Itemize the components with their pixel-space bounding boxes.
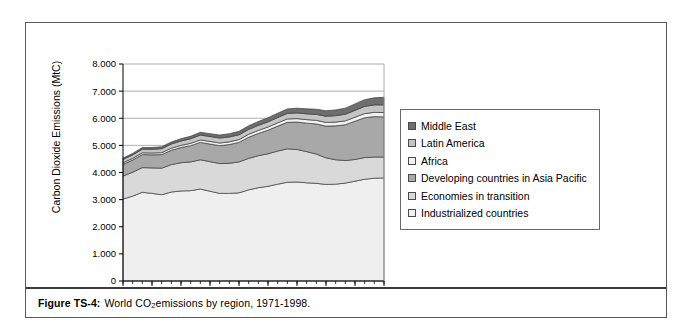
caption-subscript: 2 [151,301,155,310]
legend-label: Developing countries in Asia Pacific [421,172,587,184]
legend-swatch-icon [408,157,416,165]
svg-text:8.000: 8.000 [92,58,116,69]
svg-text:7.000: 7.000 [92,86,116,97]
legend-label: Middle East [421,120,476,132]
legend-item-industrialized-countries[interactable]: Industrialized countries [408,205,593,223]
svg-text:3.000: 3.000 [92,194,116,205]
legend-swatch-icon [408,139,416,147]
figure-caption: Figure TS-4:World CO2 emissions by regio… [26,289,666,317]
stacked-area-plot: 01.0002.0003.0004.0005.0006.0007.0008.00… [26,23,406,287]
figure-body: Carbon Dioxide Emissions (MtC) 01.0002.0… [26,23,666,287]
caption-text-after: emissions by region, 1971-1998. [155,297,310,309]
legend-label: Industrialized countries [421,207,528,219]
legend-label: Africa [421,155,448,167]
svg-text:0: 0 [111,275,116,286]
legend-swatch-icon [408,209,416,217]
legend-item-middle-east[interactable]: Middle East [408,117,593,135]
figure-frame: Carbon Dioxide Emissions (MtC) 01.0002.0… [25,22,667,318]
chart-area: Carbon Dioxide Emissions (MtC) 01.0002.0… [26,23,406,287]
legend-item-latin-america[interactable]: Latin America [408,135,593,153]
legend-label: Latin America [421,137,485,149]
chart-legend: Middle East Latin America Africa Develop… [400,109,600,230]
legend-item-economies-in-transition[interactable]: Economies in transition [408,187,593,205]
svg-text:5.000: 5.000 [92,140,116,151]
caption-label: Figure TS-4: [38,297,100,309]
svg-text:6.000: 6.000 [92,113,116,124]
legend-swatch-icon [408,122,416,130]
svg-text:2.000: 2.000 [92,221,116,232]
legend-swatch-icon [408,192,416,200]
legend-item-developing-asia-pacific[interactable]: Developing countries in Asia Pacific [408,170,593,188]
svg-text:1.000: 1.000 [92,248,116,259]
legend-item-africa[interactable]: Africa [408,152,593,170]
legend-swatch-icon [408,174,416,182]
caption-text-before: World CO [104,297,151,309]
svg-text:4.000: 4.000 [92,167,116,178]
legend-label: Economies in transition [421,190,530,202]
